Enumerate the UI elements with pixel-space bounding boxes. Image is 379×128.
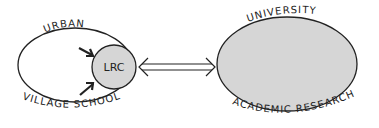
diagram-svg: URBAN VILLAGE SCHOOL LRC [0, 0, 379, 128]
lrc-node: LRC [92, 45, 136, 89]
double-arrow-connector-icon [139, 58, 215, 76]
diagram-canvas: URBAN VILLAGE SCHOOL LRC [0, 0, 379, 128]
lrc-label: LRC [104, 61, 125, 74]
urban-village-school-node: URBAN VILLAGE SCHOOL LRC [18, 18, 136, 110]
university-node: UNIVERSITY ACADEMIC RESEARCH [217, 4, 357, 115]
